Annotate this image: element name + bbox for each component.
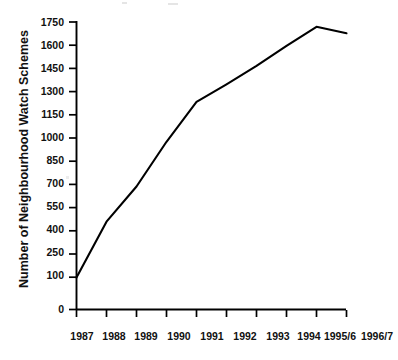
x-axis-ticks — [77, 310, 347, 317]
scan-artifact — [168, 3, 178, 5]
data-series-line — [77, 27, 347, 278]
y-axis-ticks — [69, 22, 76, 310]
scan-artifact — [66, 176, 69, 179]
scan-artifact — [122, 2, 127, 4]
